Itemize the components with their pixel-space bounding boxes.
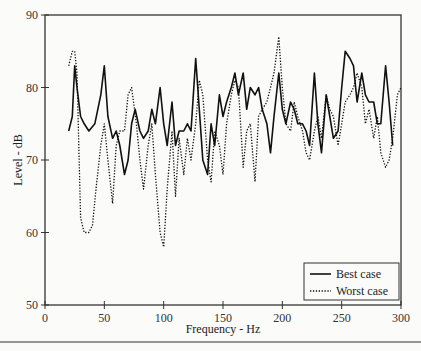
x-tick-label: 0 xyxy=(42,311,48,325)
y-axis-title: Level - dB xyxy=(11,134,25,185)
plot-border xyxy=(45,15,401,305)
y-tick-label: 80 xyxy=(26,81,38,95)
legend-label-best-case: Best case xyxy=(336,267,381,281)
legend-label-worst-case: Worst case xyxy=(336,284,388,298)
line-chart: 050100150200250300 5060708090 Frequency … xyxy=(0,0,421,351)
y-tick-label: 70 xyxy=(26,153,38,167)
plot-frame xyxy=(45,15,401,305)
legend: Best case Worst case xyxy=(304,263,399,300)
x-tick-label: 50 xyxy=(98,311,110,325)
x-tick-label: 250 xyxy=(333,311,351,325)
y-tick-label: 60 xyxy=(26,226,38,240)
x-tick-label: 200 xyxy=(273,311,291,325)
series-layer xyxy=(69,37,401,247)
x-axis-title: Frequency - Hz xyxy=(186,322,261,336)
y-tick-label: 50 xyxy=(26,298,38,312)
y-tick-label: 90 xyxy=(26,8,38,22)
x-tick-label: 100 xyxy=(155,311,173,325)
x-tick-label: 300 xyxy=(392,311,410,325)
